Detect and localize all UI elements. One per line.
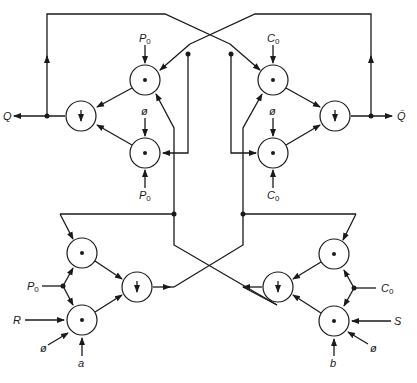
flip-flop-circuit-diagram: Q Q̄ P0 ø P0 C0 ø C0 P0 R ø a C0 S ø b [0, 0, 417, 383]
q-feedback-wire [47, 14, 230, 116]
and-gate-top-right-upper [258, 65, 288, 95]
phi-label-bottom-right: ø [370, 342, 377, 354]
p0-label-top: P0 [139, 32, 151, 46]
and-gate-bottom-left-lower [67, 305, 97, 335]
qbar-to-top-left-and-wire [160, 44, 190, 70]
p0-label-middle: P0 [139, 189, 151, 203]
svg-text:P0: P0 [139, 32, 151, 46]
nor-gate-bottom-left [122, 272, 152, 302]
svg-text:C0: C0 [267, 32, 280, 46]
c0-label-bottom: C0 [381, 282, 394, 296]
c0-label-top: C0 [267, 32, 280, 46]
phi-label-bottom-left: ø [40, 342, 47, 354]
svg-text:C0: C0 [381, 282, 394, 296]
nor-gate-top-left [66, 101, 96, 131]
and-gate-bottom-right-upper [319, 239, 349, 269]
and-gate-top-left-upper [130, 65, 160, 95]
phi-label-top-left: ø [141, 105, 148, 117]
and-gate-top-left-lower [130, 138, 160, 168]
phi-label-top-right: ø [269, 105, 276, 117]
and-gate-bottom-right-lower [319, 306, 349, 336]
c0-label-middle: C0 [267, 189, 280, 203]
nor-gate-top-right [320, 101, 350, 131]
q-output-label: Q [3, 110, 12, 122]
svg-text:P0: P0 [27, 280, 39, 294]
qbar-feedback-wire [190, 14, 371, 116]
a-input-label: a [78, 357, 84, 369]
and-gate-bottom-left-upper [67, 238, 97, 268]
and-gate-top-right-lower [258, 138, 288, 168]
q-bar-output-label: Q̄ [397, 110, 406, 122]
svg-text:C0: C0 [267, 189, 280, 203]
svg-text:P0: P0 [139, 189, 151, 203]
q-to-top-right-and-wire [230, 44, 260, 70]
nor-gate-bottom-right [263, 272, 293, 302]
p0-label-bottom: P0 [27, 280, 39, 294]
b-input-label: b [330, 357, 336, 369]
r-input-label: R [13, 314, 21, 326]
s-input-label: S [394, 315, 402, 327]
wires [14, 14, 392, 356]
